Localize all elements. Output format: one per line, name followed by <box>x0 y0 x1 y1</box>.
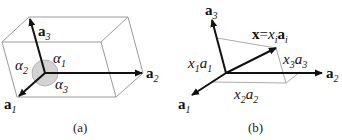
label-a3: a3 <box>38 24 51 42</box>
label-alpha2: α2 <box>15 58 28 76</box>
caption-a: (a) <box>73 120 87 136</box>
diagram-canvas <box>0 0 342 140</box>
label-a1: a1 <box>4 97 17 115</box>
label-x2a2: x2a2 <box>234 87 258 105</box>
label-alpha3: α3 <box>55 77 68 95</box>
label-x3a3: x3a3 <box>283 52 307 70</box>
label-b-a1: a1 <box>178 97 191 115</box>
label-a2: a2 <box>146 66 159 84</box>
label-x-equation: x=xiai <box>252 27 288 45</box>
label-alpha1: α1 <box>53 51 66 69</box>
label-b-a2: a2 <box>326 66 339 84</box>
label-b-a3: a3 <box>205 3 218 21</box>
label-x1a1: x1a1 <box>188 56 212 74</box>
parallelepiped-box <box>2 17 143 97</box>
caption-b: (b) <box>248 120 263 136</box>
